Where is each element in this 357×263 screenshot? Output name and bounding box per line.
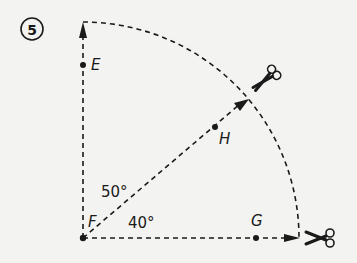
- scissors-icon: [249, 64, 282, 96]
- arrowhead-diagonal-icon: [234, 99, 249, 111]
- figure-number-badge: 5: [21, 18, 43, 40]
- cut-arc: [83, 22, 299, 238]
- diagonal-ray: [83, 104, 240, 238]
- point-G: [253, 235, 259, 241]
- label-G: G: [251, 212, 263, 230]
- point-E: [80, 62, 86, 68]
- diagram: 5 E F G H 50° 40°: [0, 0, 357, 263]
- label-F: F: [88, 213, 97, 231]
- arrowhead-up-icon: [79, 22, 87, 38]
- figure-number: 5: [27, 22, 37, 38]
- scissors-icon: [306, 229, 334, 247]
- label-E: E: [91, 56, 101, 74]
- angle-label-50: 50°: [101, 183, 128, 201]
- angle-label-40: 40°: [128, 214, 155, 232]
- label-H: H: [219, 130, 230, 148]
- point-F: [80, 235, 86, 241]
- point-H: [212, 124, 218, 130]
- quarter-circle-figure: 5 E F G H 50° 40°: [0, 0, 357, 263]
- arrowhead-right-icon: [284, 234, 300, 242]
